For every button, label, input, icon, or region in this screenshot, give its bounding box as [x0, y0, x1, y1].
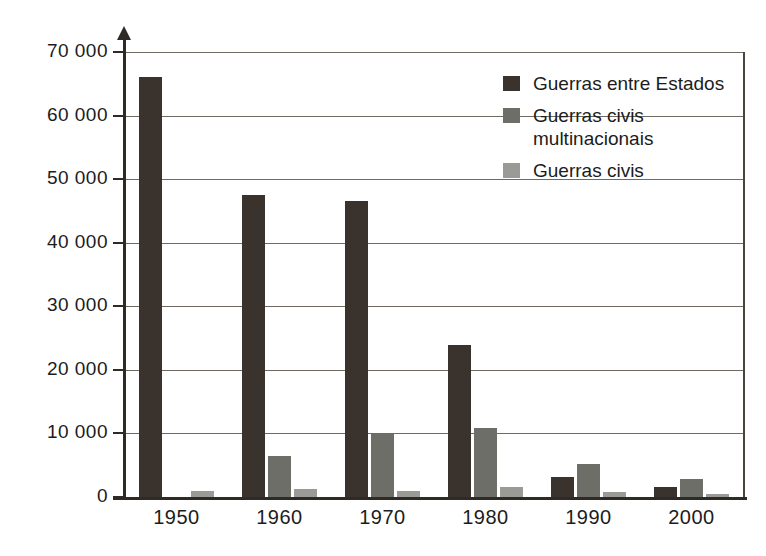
bar-2000-series3 — [706, 494, 729, 497]
bar-1960-series3 — [294, 489, 317, 497]
bar-1970-series3 — [397, 491, 420, 497]
x-axis-label-1990: 1990 — [544, 506, 634, 529]
y-axis-label-10000: 10 000 — [0, 421, 108, 443]
chart-legend: Guerras entre EstadosGuerras civis multi… — [503, 72, 753, 191]
bar-2000-series2 — [680, 479, 703, 497]
x-axis-label-1970: 1970 — [338, 506, 428, 529]
bar-chart: 010 00020 00030 00040 00050 00060 00070 … — [0, 0, 766, 556]
bar-1970-series2 — [371, 434, 394, 497]
bar-1960-series2 — [268, 456, 291, 497]
x-axis-label-1960: 1960 — [235, 506, 325, 529]
x-axis-label-1950: 1950 — [132, 506, 222, 529]
y-axis-label-60000: 60 000 — [0, 104, 108, 126]
legend-swatch-icon-2 — [503, 108, 520, 123]
bar-1990-series2 — [577, 464, 600, 497]
y-axis-label-50000: 50 000 — [0, 167, 108, 189]
bar-1960-series1 — [242, 195, 265, 497]
legend-swatch-icon-1 — [503, 76, 520, 91]
y-axis-label-40000: 40 000 — [0, 231, 108, 253]
y-axis-label-0: 0 — [0, 485, 108, 507]
bar-1950-series1 — [139, 77, 162, 497]
legend-label-1: Guerras entre Estados — [533, 72, 724, 95]
bar-1990-series1 — [551, 477, 574, 497]
legend-item-1: Guerras entre Estados — [503, 72, 753, 95]
x-axis-label-2000: 2000 — [647, 506, 737, 529]
bar-2000-series1 — [654, 487, 677, 497]
y-axis-label-20000: 20 000 — [0, 358, 108, 380]
legend-item-3: Guerras civis — [503, 159, 753, 182]
legend-swatch-icon-3 — [503, 163, 520, 178]
legend-item-2: Guerras civis multinacionais — [503, 104, 753, 150]
bar-1990-series3 — [603, 492, 626, 497]
bar-1980-series1 — [448, 345, 471, 497]
x-axis-label-1980: 1980 — [441, 506, 531, 529]
legend-label-3: Guerras civis — [533, 159, 644, 182]
y-axis-label-30000: 30 000 — [0, 294, 108, 316]
bar-1980-series2 — [474, 428, 497, 497]
bar-1950-series3 — [191, 491, 214, 497]
bar-1970-series1 — [345, 201, 368, 497]
legend-label-2: Guerras civis multinacionais — [533, 104, 653, 150]
bar-1980-series3 — [500, 487, 523, 497]
x-axis-line — [113, 497, 747, 500]
y-axis-label-70000: 70 000 — [0, 40, 108, 62]
